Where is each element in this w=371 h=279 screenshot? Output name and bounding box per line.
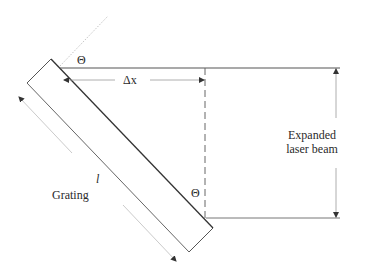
grating-top-edge	[27, 59, 51, 83]
length-label: l	[96, 172, 100, 186]
grating-label: Grating	[52, 188, 89, 202]
grating-beam-diagram: Θ Δx Θ l Grating Expanded laser beam	[0, 0, 371, 279]
delta-x-label: Δx	[123, 73, 137, 87]
grating	[27, 59, 213, 252]
beam-label-line2: laser beam	[286, 142, 338, 156]
grating-bottom-edge	[189, 228, 213, 252]
theta-top-label: Θ	[77, 53, 86, 67]
grating-back-edge	[27, 83, 189, 252]
beam-label-line1: Expanded	[288, 128, 336, 142]
theta-bottom-label: Θ	[191, 186, 200, 200]
